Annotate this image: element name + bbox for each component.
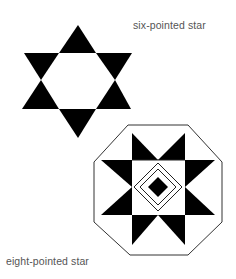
star8-point-top-right bbox=[158, 133, 185, 160]
star6-point-upper-left bbox=[24, 53, 59, 80]
star8-point-left-bottom bbox=[101, 187, 132, 215]
stars-diagram bbox=[0, 0, 236, 279]
star6-point-lower-left bbox=[22, 80, 59, 109]
star8-point-top-left bbox=[132, 133, 158, 160]
six-pointed-star-label: six-pointed star bbox=[133, 19, 206, 31]
center-diamond bbox=[148, 177, 168, 197]
star8-point-right-bottom bbox=[185, 187, 215, 215]
eight-pointed-star-label: eight-pointed star bbox=[6, 255, 89, 267]
star6-point-top bbox=[59, 25, 96, 53]
star8-point-right-top bbox=[185, 160, 215, 187]
star6-point-lower-right bbox=[96, 80, 131, 109]
star6-point-bottom bbox=[59, 109, 96, 138]
star8-point-bottom-left bbox=[132, 215, 158, 245]
six-pointed-star bbox=[22, 25, 132, 138]
star8-point-left-top bbox=[101, 160, 132, 187]
star8-point-bottom-right bbox=[158, 215, 185, 245]
eight-pointed-star bbox=[94, 125, 222, 255]
star6-point-upper-right bbox=[96, 53, 132, 80]
